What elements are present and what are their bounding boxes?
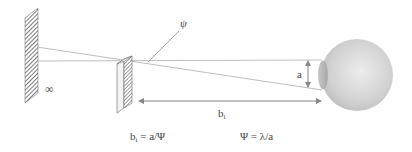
formula-left-rest: = a/Ψ xyxy=(137,130,165,142)
light-rays xyxy=(37,47,322,90)
aperture-label: a xyxy=(297,69,302,80)
infinity-label: ∞ xyxy=(45,83,54,95)
eye xyxy=(319,39,394,111)
formula-left: bi = a/Ψ xyxy=(130,131,165,144)
object-grating xyxy=(117,56,132,113)
optics-diagram xyxy=(0,0,412,152)
distance-label: bi xyxy=(218,108,225,121)
psi-angle-label: ψ xyxy=(180,18,187,29)
far-screen xyxy=(25,8,38,103)
formula-right: Ψ = λ/a xyxy=(240,131,273,142)
psi-leader-line xyxy=(148,31,179,62)
distance-label-sub: i xyxy=(224,113,226,121)
pupil xyxy=(319,61,328,89)
